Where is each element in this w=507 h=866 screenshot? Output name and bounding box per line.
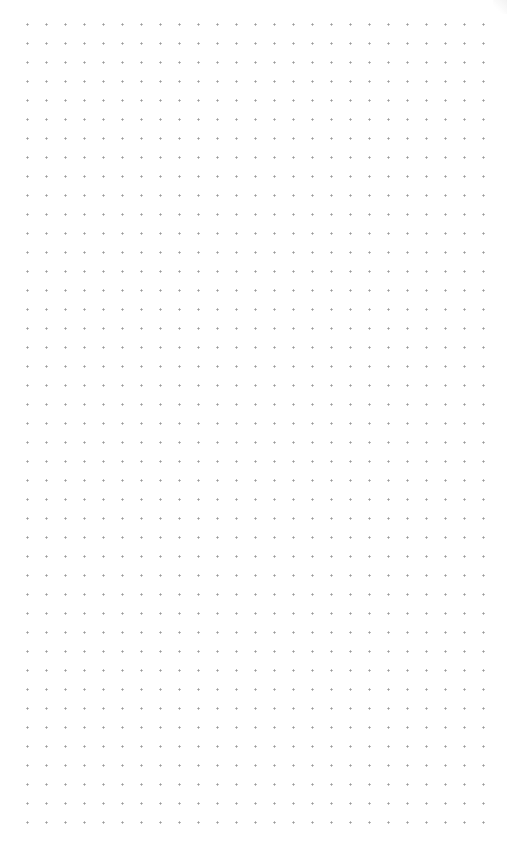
- corner-shadow: [493, 0, 507, 14]
- dot-grid-canvas[interactable]: [0, 0, 507, 866]
- dot-grid-pattern: [18, 15, 498, 834]
